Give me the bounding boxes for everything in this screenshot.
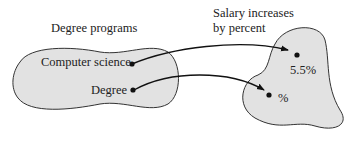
element-dot-degree <box>130 87 135 92</box>
domain-element-degree: Degree <box>91 83 127 97</box>
domain-title: Degree programs <box>51 21 137 35</box>
element-dot-5-5 <box>294 52 299 57</box>
codomain-set-blob <box>243 28 343 128</box>
codomain-element-percent: % <box>278 91 288 105</box>
element-dot-percent <box>266 92 271 97</box>
codomain-title-line2: by percent <box>213 21 265 35</box>
codomain-title-line1: Salary increases <box>213 6 294 20</box>
domain-element-computer-science: Computer science <box>41 55 131 69</box>
function-mapping-diagram: Degree programs Computer science Degree … <box>0 0 360 142</box>
codomain-element-5-5-percent: 5.5% <box>290 63 316 77</box>
